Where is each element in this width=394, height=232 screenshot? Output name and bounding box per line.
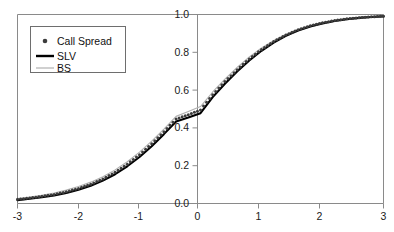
chart-legend: Call Spread SLV BS [31,27,126,74]
x-tick-label: -2 [74,210,83,222]
legend-box [31,27,126,73]
x-tick-label: -3 [13,210,22,222]
legend-label-bs: BS [57,62,71,74]
y-tick-label: 0.4 [174,121,189,133]
chart-plot-svg: -3 -2 -1 0 1 2 3 0.0 0.2 0.4 0.6 0.8 1.0… [0,0,394,232]
chart-figure: -3 -2 -1 0 1 2 3 0.0 0.2 0.4 0.6 0.8 1.0… [0,0,394,232]
y-tick-label: 0.6 [174,84,189,96]
y-tick-label: 0.8 [174,46,189,58]
legend-label-slv: SLV [57,50,76,62]
x-tick-label: 2 [317,210,323,222]
x-tick-label: -1 [134,210,143,222]
legend-marker-call-spread-icon [43,39,48,44]
x-tick-label: 3 [381,210,387,222]
x-tick-label: 0 [195,210,201,222]
legend-label-call-spread: Call Spread [57,35,112,47]
y-tick-label: 0.0 [174,197,189,209]
y-tick-label: 0.2 [174,159,189,171]
x-tick-label: 1 [256,210,262,222]
y-tick-label: 1.0 [174,8,189,20]
